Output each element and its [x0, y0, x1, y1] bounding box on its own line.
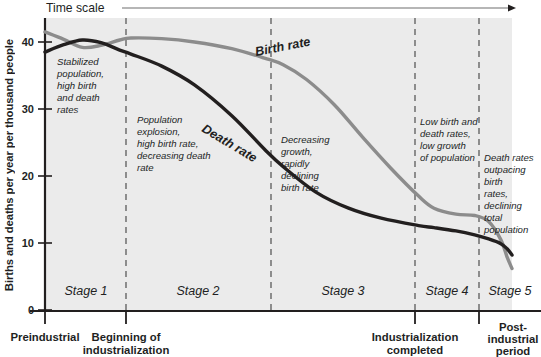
- stage5-annotation-line-5: total: [484, 212, 503, 223]
- stage3-annotation-line-1: growth,: [281, 146, 312, 157]
- x-axis-captions: Preindustrial Beginning of industrializa…: [10, 321, 538, 357]
- demographic-transition-figure: Births and deaths per year per thousand …: [0, 0, 541, 357]
- time-scale-axis: Time scale: [46, 1, 516, 15]
- y-tick-label-10: 10: [22, 237, 34, 249]
- x-caption-beginning-line-1: industrialization: [83, 344, 170, 356]
- x-caption-beginning-line-0: Beginning of: [91, 331, 160, 343]
- stage3-annotation-line-4: birth rate: [281, 182, 319, 193]
- x-caption-preindustrial-line-0: Preindustrial: [10, 331, 79, 343]
- y-tick-label-40: 40: [22, 36, 34, 48]
- stage3-annotation-line-0: Decreasing: [281, 134, 330, 145]
- stage4-annotation-line-1: death rates,: [420, 128, 471, 139]
- stage-label-4: Stage 4: [425, 284, 468, 298]
- time-scale-label: Time scale: [46, 1, 105, 15]
- x-axis-ticks: [45, 311, 479, 324]
- y-axis-title: Births and deaths per year per thousand …: [0, 0, 19, 330]
- stage1-annotation-line-1: population,: [56, 68, 104, 79]
- stage5-annotation-line-4: declining: [484, 200, 523, 211]
- stage5-annotation-line-3: rates,: [484, 188, 508, 199]
- stage1-annotation-line-2: high birth: [57, 80, 96, 91]
- stage5-annotation-line-1: outpacing: [484, 164, 526, 175]
- y-axis-title-text: Births and deaths per year per thousand …: [3, 39, 15, 291]
- stage5-annotation-line-2: birth: [484, 176, 503, 187]
- x-caption-postindustrial-line-1: industrial: [488, 333, 539, 345]
- stage-label-1: Stage 1: [64, 284, 107, 298]
- chart-canvas: Time scale 0 10 20 30 40: [0, 0, 541, 357]
- stage2-annotation-line-0: Population: [137, 114, 182, 125]
- stage5-annotation-line-0: Death rates: [484, 152, 534, 163]
- stage-label-2: Stage 2: [176, 284, 219, 298]
- x-caption-industrialization-line-1: completed: [387, 344, 444, 356]
- y-tick-label-0: 0: [28, 304, 34, 316]
- stage-label-5: Stage 5: [488, 284, 531, 298]
- stage2-annotation-line-3: decreasing death: [137, 150, 211, 161]
- x-caption-postindustrial-line-2: period: [496, 345, 531, 357]
- stage2-annotation-line-4: rate: [137, 162, 154, 173]
- stage1-annotation-line-4: rates: [57, 104, 79, 115]
- time-scale-arrow-icon: [508, 5, 516, 12]
- stage1-annotation-line-3: and death: [57, 92, 100, 103]
- stage4-annotation-line-2: low growth: [420, 140, 466, 151]
- stage3-annotation-line-3: declining: [281, 170, 320, 181]
- stage2-annotation-line-1: explosion,: [137, 126, 180, 137]
- stage4-annotation-line-0: Low birth and: [420, 116, 478, 127]
- stage3-annotation-line-2: rapidly: [281, 158, 310, 169]
- stage5-annotation-line-6: population: [483, 224, 528, 235]
- y-tick-label-20: 20: [22, 170, 34, 182]
- stage4-annotation-line-3: of population: [420, 152, 475, 163]
- stage1-annotation-line-0: Stabilized: [57, 56, 99, 67]
- stage-label-3: Stage 3: [321, 284, 364, 298]
- y-tick-label-30: 30: [22, 103, 34, 115]
- stage2-annotation-line-2: high birth rate,: [137, 138, 198, 149]
- x-caption-industrialization-line-0: Industrialization: [372, 331, 459, 343]
- x-caption-postindustrial-line-0: Post-: [499, 321, 527, 333]
